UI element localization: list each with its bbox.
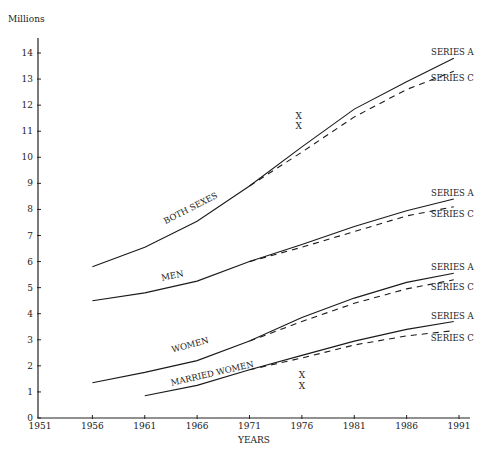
- x-tick-label: 1951: [29, 421, 52, 431]
- women-curve-label: WOMEN: [170, 335, 210, 355]
- x-mark-annotation: X: [296, 121, 303, 131]
- women-series-label: SERIES C: [431, 282, 474, 292]
- men-series-a-line: [92, 199, 453, 301]
- x-mark-annotation: X: [299, 381, 306, 391]
- y-tick-label: 9: [27, 178, 33, 188]
- x-axis-title: YEARS: [237, 435, 270, 445]
- x-tick-label: 1986: [395, 421, 418, 431]
- women-series-c-line: [250, 280, 454, 341]
- both-sexes-series-a-line: [92, 58, 453, 267]
- y-tick-label: 4: [27, 309, 33, 319]
- series-layer: [92, 58, 453, 396]
- y-tick-label: 11: [22, 126, 33, 136]
- labels-layer: SERIES ASERIES CBOTH SEXESSERIES ASERIES…: [160, 47, 474, 388]
- married-women-series-label: SERIES C: [431, 333, 474, 343]
- x-tick-label: 1961: [133, 421, 156, 431]
- men-series-c-line: [250, 207, 454, 262]
- y-tick-label: 14: [22, 48, 34, 58]
- both-sexes-series-c-line: [250, 71, 454, 186]
- y-tick-label: 13: [22, 74, 34, 84]
- y-tick-label: 12: [22, 100, 33, 110]
- x-mark-annotation: X: [299, 370, 306, 380]
- x-mark-annotation: X: [296, 111, 303, 121]
- line-chart: Millions YEARS 01234567891011121314 1951…: [0, 0, 498, 469]
- annotations: XXXX: [296, 111, 306, 391]
- y-tick-label: 5: [27, 283, 33, 293]
- y-tick-label: 7: [27, 231, 33, 241]
- x-tick-label: 1966: [186, 421, 209, 431]
- x-tick-label: 1991: [448, 421, 471, 431]
- x-tick-label: 1981: [343, 421, 366, 431]
- y-tick-label: 10: [22, 152, 34, 162]
- men-series-label: SERIES C: [431, 209, 474, 219]
- both-sexes-series-label: SERIES C: [431, 73, 474, 83]
- women-series-label: SERIES A: [431, 262, 475, 272]
- x-tick-label: 1976: [290, 421, 313, 431]
- married-women-series-c-line: [250, 331, 454, 370]
- men-series-label: SERIES A: [431, 188, 475, 198]
- y-tick-label: 6: [27, 257, 33, 267]
- y-tick-label: 1: [27, 387, 33, 397]
- y-tick-label: 3: [27, 335, 33, 345]
- x-tick-label: 1956: [81, 421, 104, 431]
- y-axis-title: Millions: [8, 14, 45, 24]
- both-sexes-curve-label: BOTH SEXES: [162, 190, 220, 226]
- women-series-a-line: [92, 273, 453, 383]
- y-tick-label: 8: [27, 204, 33, 214]
- men-curve-label: MEN: [160, 268, 184, 283]
- both-sexes-series-label: SERIES A: [431, 47, 475, 57]
- married-women-curve-label: MARRIED WOMEN: [170, 359, 255, 388]
- x-tick-label: 1971: [238, 421, 261, 431]
- married-women-series-label: SERIES A: [431, 311, 475, 321]
- y-tick-label: 2: [27, 361, 33, 371]
